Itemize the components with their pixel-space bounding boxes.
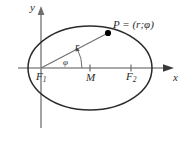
- focus2-label: F2: [126, 71, 136, 84]
- focus1-subscript: 1: [43, 75, 47, 84]
- focus2-subscript: 2: [133, 75, 137, 84]
- radius-label: r: [75, 41, 79, 52]
- center-label: M: [86, 72, 95, 83]
- angle-phi-label: φ: [63, 58, 68, 67]
- x-axis-label: x: [173, 72, 178, 83]
- point-p-label: P = (r;φ): [113, 19, 154, 30]
- focus1-label: F1: [36, 71, 46, 84]
- y-axis-arrowhead: [38, 6, 45, 15]
- focus2-letter: F: [126, 70, 133, 82]
- diagram-canvas: [0, 0, 191, 141]
- ellipse-polar-diagram: y x F1 M F2 P = (r;φ) r φ: [0, 0, 191, 141]
- focus1-letter: F: [36, 70, 43, 82]
- y-axis-label: y: [30, 2, 35, 13]
- point-p-marker: [105, 30, 111, 36]
